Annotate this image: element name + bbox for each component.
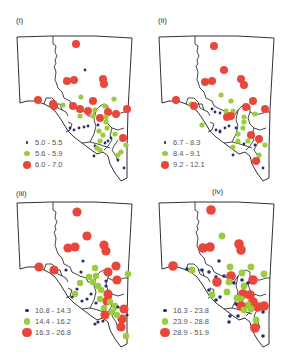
data-point-low: [211, 108, 214, 111]
data-point-high: [70, 242, 79, 251]
region-boundary: [112, 140, 118, 162]
data-point-high: [103, 267, 112, 276]
dot-small-icon: [25, 309, 28, 312]
data-point-mid: [219, 233, 226, 240]
data-point-high: [112, 275, 121, 284]
data-point-high: [72, 207, 81, 216]
data-point-low: [93, 322, 96, 325]
data-point-high: [119, 304, 128, 313]
data-point-high: [168, 261, 178, 271]
data-point-mid: [239, 270, 246, 277]
data-point-mid: [107, 299, 113, 305]
data-point-high: [34, 262, 43, 271]
data-point-low: [93, 155, 96, 158]
data-point-high: [84, 107, 92, 115]
data-point-high: [72, 40, 80, 48]
data-point-high: [210, 42, 218, 50]
data-point-low: [215, 129, 218, 132]
map-panel-ii: (ii) 6.7 - 8.3 8.4 - 9.1 9.2 - 12.1: [142, 0, 284, 182]
panel-label: (ii): [158, 16, 167, 25]
data-point-low: [73, 129, 76, 132]
data-point-mid: [103, 119, 108, 124]
legend-label: 14.4 - 16.2: [35, 316, 71, 327]
legend-label: 16.3 - 23.8: [173, 305, 209, 316]
data-point-low: [235, 127, 238, 130]
data-point-low: [219, 131, 222, 134]
data-point-low: [224, 127, 227, 130]
data-point-mid: [60, 102, 65, 107]
data-point-high: [76, 105, 84, 113]
data-point-mid: [240, 125, 245, 130]
data-point-mid: [227, 264, 234, 271]
dot-small-icon: [164, 141, 167, 144]
legend-label: 5.6 - 5.9: [35, 148, 63, 159]
data-point-high: [250, 323, 260, 333]
data-point-high: [190, 102, 198, 110]
data-point-mid: [241, 119, 246, 124]
data-point-high: [249, 97, 257, 105]
data-point-high: [69, 102, 77, 110]
data-point-low: [246, 281, 250, 285]
data-point-high: [119, 134, 127, 142]
region-boundary: [186, 264, 210, 282]
data-point-low: [79, 270, 82, 273]
data-point-mid: [189, 267, 196, 274]
data-point-low: [94, 301, 97, 304]
data-point-low: [107, 140, 110, 143]
data-point-mid: [112, 131, 117, 136]
data-point-low: [104, 142, 107, 145]
region-boundary: [66, 122, 72, 132]
data-point-low: [85, 297, 88, 300]
legend-label: 28.9 - 51.9: [173, 327, 209, 338]
data-point-low: [214, 111, 217, 114]
panel-label: (i): [16, 16, 23, 25]
data-point-mid: [104, 125, 109, 130]
data-point-low: [78, 127, 81, 130]
dot-medium-icon: [162, 151, 167, 156]
map-legend: 16.3 - 23.8 23.9 - 28.8 28.9 - 51.9: [160, 305, 209, 338]
data-point-low: [80, 299, 83, 302]
region-boundary: [53, 36, 72, 106]
data-point-mid: [235, 138, 240, 143]
data-point-low: [81, 259, 84, 262]
legend-row-high: 9.2 - 12.1: [160, 159, 205, 170]
data-point-mid: [97, 138, 102, 143]
data-point-high: [205, 242, 215, 252]
data-point-high: [236, 245, 246, 255]
data-point-mid: [224, 289, 231, 296]
data-point-low: [125, 313, 128, 316]
data-point-mid: [253, 317, 260, 324]
data-point-low: [207, 288, 211, 292]
legend-row-low: 10.8 - 14.3: [22, 305, 71, 316]
map-panel-iv: (iv) 16.3 - 23.8 23.9 - 28.8 28.9 - 51.9: [142, 182, 284, 364]
data-point-high: [100, 80, 108, 88]
data-point-high: [201, 78, 209, 86]
legend-label: 23.9 - 28.8: [173, 316, 209, 327]
data-point-high: [208, 77, 216, 85]
data-point-low: [243, 143, 246, 146]
data-point-mid: [93, 273, 99, 279]
data-point-high: [100, 310, 109, 319]
map-panel-i: (i) 5.0 - 5.5 5.6 - 5.9 6.0 - 7.0: [0, 0, 142, 182]
dot-medium-icon: [24, 151, 29, 156]
data-point-high: [70, 76, 78, 84]
data-point-high: [116, 322, 125, 331]
data-point-high: [220, 66, 228, 74]
map-legend: 6.7 - 8.3 8.4 - 9.1 9.2 - 12.1: [160, 137, 205, 170]
data-point-low: [70, 295, 73, 298]
data-point-low: [228, 125, 231, 128]
data-point-low: [217, 259, 221, 263]
legend-label: 6.7 - 8.3: [173, 137, 201, 148]
data-point-high: [252, 157, 260, 165]
data-point-high: [112, 110, 120, 118]
data-point-low: [97, 124, 100, 127]
dot-small-icon: [26, 141, 29, 144]
dot-medium-icon: [162, 318, 169, 325]
data-point-high: [49, 265, 58, 274]
data-point-low: [228, 314, 232, 318]
data-point-mid: [248, 264, 255, 271]
data-point-low: [218, 295, 222, 299]
region-boundary: [254, 128, 266, 130]
data-point-mid: [98, 287, 104, 293]
data-point-low: [214, 298, 218, 302]
